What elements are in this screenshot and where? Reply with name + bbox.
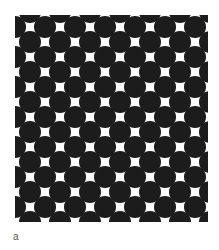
figure-panel: a: [0, 0, 219, 250]
dot-grid-graphic: [15, 15, 208, 222]
panel-label: a: [13, 232, 19, 242]
dot-pattern-image: [15, 15, 208, 222]
